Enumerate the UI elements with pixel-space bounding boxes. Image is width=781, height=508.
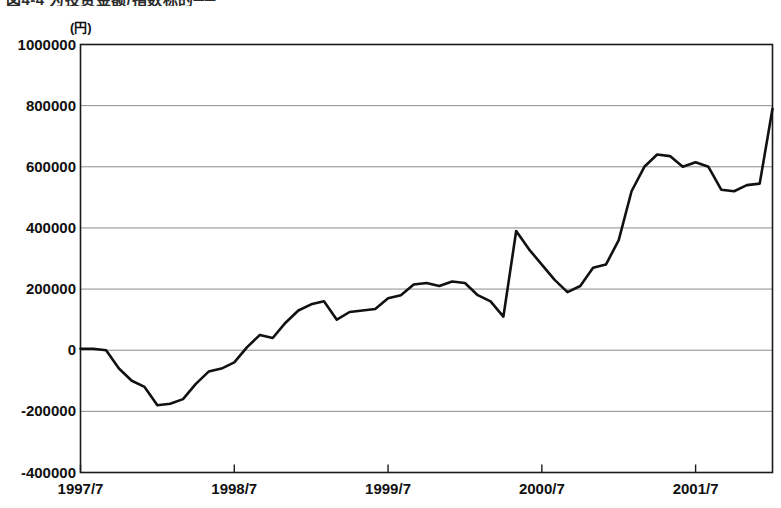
x-axis-tick-label: 2000/7 (497, 481, 587, 496)
chart-figure: 図4-4 为投资金额/指数标的── (円) 100000080000060000… (0, 0, 781, 508)
plot-canvas (0, 0, 781, 508)
x-axis-ticks (81, 465, 696, 473)
y-axis-tick-label: 0 (0, 342, 76, 357)
y-axis-tick-label: 400000 (0, 220, 76, 235)
data-line-series-1 (81, 109, 773, 406)
plot-frame (81, 45, 773, 473)
y-axis-tick-label: 600000 (0, 159, 76, 174)
y-axis-tick-label: 800000 (0, 98, 76, 113)
x-axis-tick-label: 2001/7 (651, 481, 741, 496)
gridlines (81, 106, 773, 412)
y-axis-tick-label: -200000 (0, 403, 76, 418)
x-axis-tick-label: 1997/7 (36, 481, 126, 496)
y-axis-tick-label: 1000000 (0, 37, 76, 52)
x-axis-tick-label: 1998/7 (189, 481, 279, 496)
y-axis-tick-label: 200000 (0, 281, 76, 296)
x-axis-tick-label: 1999/7 (343, 481, 433, 496)
y-axis-tick-label: -400000 (0, 465, 76, 480)
